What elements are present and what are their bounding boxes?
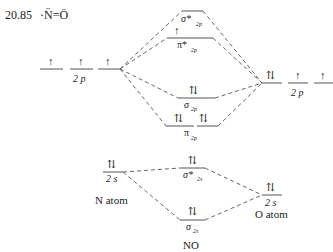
o-2p-electron-2: ↑ — [295, 69, 301, 81]
molecule-label: NO — [183, 239, 199, 251]
sigma-star-2s-electrons: ⇅ — [188, 154, 197, 166]
pi-star-2p-sub: 2p — [191, 47, 197, 53]
sigma-2s-electrons: ⇅ — [188, 205, 197, 217]
sigma-star-2s-label: σ* — [183, 169, 193, 180]
pi-star-2p-electron: ↑ — [174, 24, 180, 36]
o-2s-label: 2 s — [265, 197, 277, 208]
sigma-star-2p-label: σ* — [181, 13, 191, 24]
n-2p-label: 2 p — [73, 73, 86, 84]
o-2s-electrons: ⇅ — [266, 181, 275, 193]
n-2p-electron-2: ↑ — [78, 55, 84, 67]
o-2p-label: 2 p — [291, 87, 304, 98]
pi-2p-electrons-2: ⇅ — [199, 112, 208, 124]
o-2p-electron-3: ↑ — [320, 69, 326, 81]
n-2s-electrons: ⇅ — [107, 158, 116, 170]
pi-2p-electrons-1: ⇅ — [174, 112, 183, 124]
n-2p-electron-3: ↑ — [105, 55, 111, 67]
sigma-star-2s-sub: 2s — [197, 176, 203, 182]
pi-2p-sub: 2p — [191, 135, 197, 141]
sigma-2p-sub: 2p — [191, 106, 197, 112]
lewis-structure: ·N̈=Ö — [40, 7, 68, 22]
n-2p-electron-1: ↑ — [48, 55, 54, 67]
sigma-2s-label: σ — [186, 221, 192, 232]
pi-star-2p-label: π* — [177, 39, 187, 50]
sigma-star-2p-sub: 2p — [196, 21, 202, 27]
sigma-2p-electrons: ⇅ — [189, 84, 198, 96]
mo-diagram: 20.85 ·N̈=Ö ↑ ↑ ↑ 2 p ⇅ ↑ ↑ 2 p σ* 2p ↑ — [0, 0, 333, 252]
n-2s-label: 2 s — [106, 173, 118, 184]
sigma-2s-sub: 2s — [193, 228, 199, 234]
o-atom-label: O atom — [255, 208, 288, 220]
problem-number: 20.85 — [5, 8, 32, 22]
n-atom-label: N atom — [95, 194, 128, 206]
o-2p-electron-1: ⇅ — [266, 69, 275, 81]
pi-2p-label: π — [184, 127, 189, 138]
sigma-2p-label: σ — [184, 99, 190, 110]
